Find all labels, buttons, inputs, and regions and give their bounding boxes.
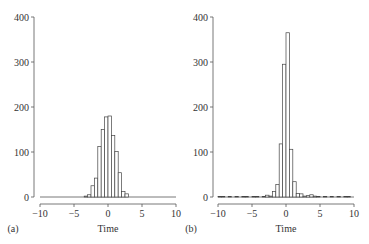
histogram-bar	[313, 196, 316, 197]
histogram-bar	[296, 193, 299, 197]
histogram-bar	[101, 130, 104, 198]
histogram-bar	[272, 192, 275, 197]
histogram-bar	[98, 147, 101, 197]
x-tick-label: 5	[140, 208, 145, 219]
histogram-bar	[122, 192, 125, 197]
histogram-bar	[286, 33, 289, 197]
histogram-bar	[108, 116, 111, 197]
x-tick-label: 0	[284, 208, 289, 219]
y-tick-label: 300	[193, 57, 208, 68]
y-tick-label: 300	[14, 57, 29, 68]
x-tick-label: −5	[247, 208, 258, 219]
histogram-bar	[269, 196, 272, 197]
x-tick-label: −5	[69, 208, 80, 219]
panel-label: (b)	[185, 223, 197, 235]
x-axis-label: Time	[276, 223, 297, 234]
y-tick-label: 200	[14, 102, 29, 113]
histogram-bar	[303, 196, 306, 197]
y-tick-label: 200	[193, 102, 208, 113]
histogram-panel-a: 0100200300400−10−50510Time(a)	[7, 12, 181, 236]
histogram-bar	[289, 149, 292, 197]
y-tick-label: 0	[203, 192, 208, 203]
x-tick-label: 5	[318, 208, 323, 219]
histogram-bar	[94, 178, 97, 197]
histogram-bar	[111, 135, 114, 197]
histogram-bar	[276, 184, 279, 197]
y-tick-label: 100	[14, 147, 29, 158]
histogram-figure: 0100200300400−10−50510Time(a)01002003004…	[0, 0, 369, 244]
y-tick-label: 0	[24, 192, 29, 203]
x-tick-label: 0	[106, 208, 111, 219]
x-tick-label: −10	[210, 208, 226, 219]
histogram-bar	[279, 144, 282, 197]
histogram-bar	[300, 194, 303, 197]
x-tick-label: 10	[349, 208, 359, 219]
histogram-panel-b: 0100200300400−10−50510Time(b)	[185, 12, 359, 236]
histogram-bar	[266, 195, 269, 197]
histogram-bar	[125, 194, 128, 197]
y-tick-label: 400	[193, 12, 208, 23]
histogram-bar	[306, 196, 309, 197]
panel-label: (a)	[7, 223, 18, 235]
histogram-bar	[84, 196, 87, 197]
histogram-bar	[118, 173, 121, 197]
histogram-bar	[105, 117, 108, 197]
y-tick-label: 400	[14, 12, 29, 23]
x-tick-label: −10	[32, 208, 48, 219]
x-tick-label: 10	[171, 208, 181, 219]
histogram-bar	[310, 195, 313, 197]
y-tick-label: 100	[193, 147, 208, 158]
histogram-bar	[115, 152, 118, 197]
x-axis-label: Time	[98, 223, 119, 234]
histogram-bar	[283, 64, 286, 197]
histogram-bar	[88, 195, 91, 197]
histogram-bar	[91, 186, 94, 197]
histogram-bar	[293, 182, 296, 197]
